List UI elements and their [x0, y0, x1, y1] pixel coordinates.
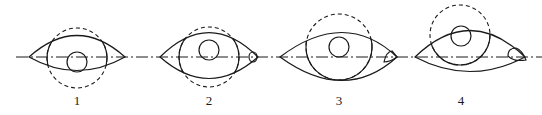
figure-label: 1 [74, 93, 81, 108]
figure-label: 3 [336, 93, 343, 108]
pupil [451, 26, 471, 46]
eye-figure-1: 1 [29, 28, 125, 108]
eyelid-outline [29, 36, 125, 71]
pupil [67, 52, 87, 72]
iris-hidden-outline [47, 28, 107, 88]
pupil [329, 37, 349, 57]
eye-diagram: 1 2 3 4 [0, 0, 542, 115]
pupil [199, 40, 219, 60]
eye-figure-2: 2 [160, 27, 258, 108]
caruncle [384, 51, 397, 62]
figure-label: 4 [458, 93, 465, 108]
figure-label: 2 [206, 93, 213, 108]
eye-figure-3: 3 [280, 14, 397, 108]
